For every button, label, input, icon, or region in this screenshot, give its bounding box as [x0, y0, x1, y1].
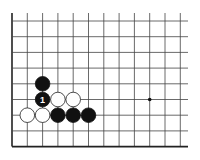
- black-stone: 1: [35, 92, 50, 107]
- black-stone: [66, 108, 81, 123]
- white-stone: [51, 92, 66, 107]
- star-point-icon: [148, 98, 152, 102]
- star-points: [148, 98, 152, 102]
- white-stone: [66, 92, 81, 107]
- go-board-diagram: 1: [0, 0, 200, 160]
- white-stone: [20, 108, 35, 123]
- black-stone: [51, 108, 66, 123]
- black-stone: [81, 108, 96, 123]
- black-stone: [35, 77, 50, 92]
- move-number-label: 1: [40, 95, 45, 105]
- white-stone: [35, 108, 50, 123]
